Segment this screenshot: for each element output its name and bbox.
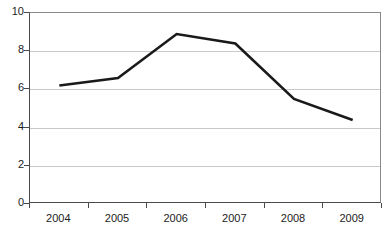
x-tick-label-2009: 2009: [339, 212, 363, 225]
x-tick-mark-1: [88, 203, 89, 208]
x-tick-mark-0: [29, 203, 30, 208]
series-line-group: [30, 13, 382, 204]
x-tick-label-2006: 2006: [163, 212, 187, 225]
x-tick-mark-2: [146, 203, 147, 208]
x-tick-mark-5: [322, 203, 323, 208]
x-tick-mark-3: [205, 203, 206, 208]
x-axis-ticks: [29, 203, 382, 209]
series-line-0: [59, 34, 352, 120]
x-tick-label-2004: 2004: [46, 212, 70, 225]
x-tick-mark-4: [264, 203, 265, 208]
y-axis-ticks: [0, 12, 29, 203]
x-axis-labels: 200420052006200720082009: [29, 212, 381, 228]
x-tick-label-2007: 2007: [222, 212, 246, 225]
line-chart: 0246810 200420052006200720082009: [0, 0, 391, 247]
x-tick-mark-6: [381, 203, 382, 208]
plot-area: [29, 12, 381, 203]
x-tick-label-2008: 2008: [281, 212, 305, 225]
x-tick-label-2005: 2005: [105, 212, 129, 225]
